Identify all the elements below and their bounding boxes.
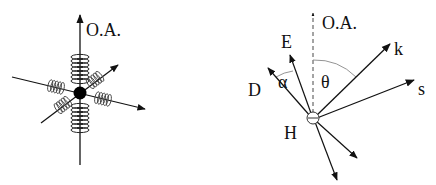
vector-E (290, 55, 312, 116)
theta-arc (313, 60, 356, 77)
vector-s (317, 80, 414, 118)
label-H: H (284, 123, 297, 143)
right-vector-diagram: O.A. E D α θ k s H (248, 13, 425, 180)
optical-axis-label: O.A. (86, 20, 121, 40)
label-alpha: α (278, 72, 288, 92)
diagram-canvas: O.A. O.A. E D α θ k s H (0, 0, 436, 185)
label-theta: θ (321, 72, 330, 92)
label-D: D (248, 80, 261, 100)
atom-nucleus-icon (74, 87, 87, 100)
optical-axis-label: O.A. (322, 13, 357, 33)
label-k: k (394, 39, 403, 59)
label-s: s (418, 79, 425, 99)
label-E: E (281, 32, 292, 52)
left-oscillator-diagram: O.A. (12, 15, 145, 165)
vector-D (268, 68, 311, 117)
